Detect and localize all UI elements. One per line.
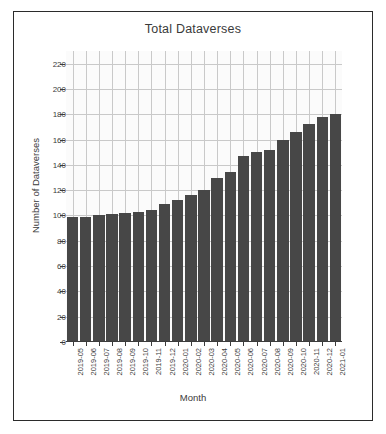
- x-tick-label: 2019-06: [89, 348, 98, 376]
- bar: [225, 172, 237, 342]
- x-tick-mark: [86, 342, 87, 346]
- y-tick-mark: [60, 291, 65, 292]
- bar: [317, 117, 329, 342]
- bar: [330, 114, 342, 342]
- bar: [67, 217, 79, 342]
- bar: [198, 190, 210, 342]
- x-tick-label: 2020-03: [207, 348, 216, 376]
- x-tick-mark: [243, 342, 244, 346]
- bar: [185, 195, 197, 342]
- x-tick-label: 2021-01: [338, 348, 347, 376]
- bar: [251, 152, 263, 342]
- bar: [290, 132, 302, 342]
- x-tick-label: 2020-05: [233, 348, 242, 376]
- bar: [211, 178, 223, 342]
- x-tick-label: 2020-06: [246, 348, 255, 376]
- y-tick-mark: [60, 165, 65, 166]
- x-tick-label: 2020-12: [325, 348, 334, 376]
- x-tick-label: 2019-09: [128, 348, 137, 376]
- bar: [133, 212, 145, 342]
- x-tick-label: 2020-04: [220, 348, 229, 376]
- x-tick-mark: [322, 342, 323, 346]
- y-tick-mark: [60, 190, 65, 191]
- x-tick-label: 2020-09: [286, 348, 295, 376]
- bar: [93, 215, 105, 342]
- y-tick-mark: [60, 215, 65, 216]
- x-tick-mark: [296, 342, 297, 346]
- bar: [238, 156, 250, 342]
- x-tick-label: 2020-01: [181, 348, 190, 376]
- x-tick-label: 2019-12: [168, 348, 177, 376]
- x-tick-mark: [165, 342, 166, 346]
- chart-page: Total Dataverses Number of Dataverses Mo…: [0, 0, 386, 434]
- x-tick-mark: [138, 342, 139, 346]
- chart-title: Total Dataverses: [0, 22, 386, 36]
- x-tick-mark: [178, 342, 179, 346]
- x-tick-mark: [283, 342, 284, 346]
- x-tick-mark: [270, 342, 271, 346]
- bar: [146, 210, 158, 342]
- y-tick-mark: [60, 64, 65, 65]
- bar: [277, 140, 289, 342]
- x-tick-label: 2019-08: [115, 348, 124, 376]
- x-tick-mark: [151, 342, 152, 346]
- x-tick-mark: [125, 342, 126, 346]
- x-tick-label: 2019-10: [141, 348, 150, 376]
- y-tick-mark: [60, 114, 65, 115]
- y-axis-ticks: 020406080100120140160180200220: [0, 51, 66, 342]
- x-tick-label: 2019-05: [76, 348, 85, 376]
- bar: [264, 150, 276, 342]
- x-tick-mark: [73, 342, 74, 346]
- x-tick-mark: [335, 342, 336, 346]
- plot-area: [66, 51, 342, 342]
- y-tick-mark: [60, 266, 65, 267]
- y-tick-mark: [60, 89, 65, 90]
- bar: [303, 124, 315, 342]
- x-tick-mark: [191, 342, 192, 346]
- y-tick-mark: [60, 317, 65, 318]
- x-tick-label: 2020-07: [260, 348, 269, 376]
- x-tick-label: 2020-10: [299, 348, 308, 376]
- bar: [172, 200, 184, 342]
- x-tick-mark: [257, 342, 258, 346]
- bar: [80, 217, 92, 342]
- bar: [119, 213, 131, 342]
- bar: [159, 204, 171, 342]
- y-tick-mark: [60, 241, 65, 242]
- y-tick-mark: [60, 342, 65, 343]
- x-tick-label: 2020-08: [273, 348, 282, 376]
- y-tick-mark: [60, 140, 65, 141]
- x-tick-mark: [112, 342, 113, 346]
- x-tick-label: 2020-02: [194, 348, 203, 376]
- x-axis-ticks: 2019-052019-062019-072019-082019-092019-…: [66, 342, 342, 394]
- x-tick-mark: [204, 342, 205, 346]
- x-tick-label: 2020-11: [312, 348, 321, 375]
- x-tick-mark: [99, 342, 100, 346]
- x-tick-mark: [217, 342, 218, 346]
- x-tick-label: 2019-11: [154, 348, 163, 375]
- x-tick-mark: [230, 342, 231, 346]
- bar: [106, 214, 118, 342]
- x-tick-mark: [309, 342, 310, 346]
- x-tick-label: 2019-07: [102, 348, 111, 376]
